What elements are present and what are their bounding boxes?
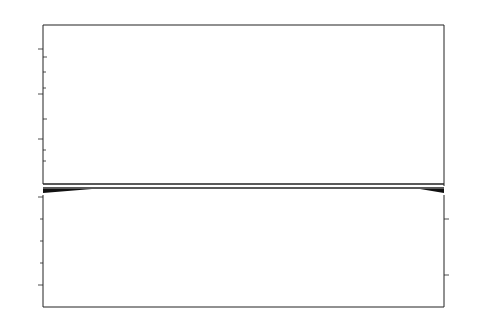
figure-canvas: [0, 0, 478, 332]
top-panel: [38, 25, 444, 188]
wedge-left: [43, 189, 92, 193]
bottom-panel: [38, 195, 449, 307]
wedge-right: [420, 189, 444, 193]
